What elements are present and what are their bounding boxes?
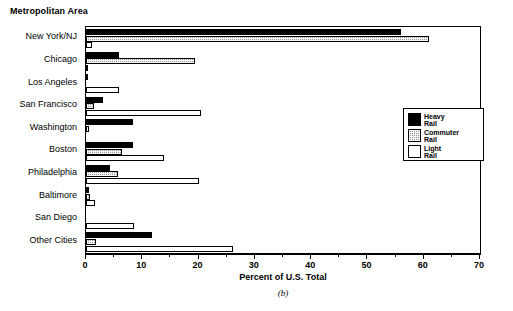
x-tick-45 bbox=[338, 254, 339, 257]
x-tick-20 bbox=[198, 254, 199, 259]
x-axis: 010203040506070 bbox=[85, 254, 481, 255]
bar-commuter-new-york-nj bbox=[86, 36, 429, 42]
x-tick-label-50: 50 bbox=[361, 260, 371, 270]
x-tick-label-60: 60 bbox=[418, 260, 428, 270]
legend-item-commuter: CommuterRail bbox=[408, 129, 479, 143]
x-tick-label-20: 20 bbox=[193, 260, 203, 270]
legend-swatch-commuter-icon bbox=[408, 129, 421, 142]
x-tick-label-40: 40 bbox=[305, 260, 315, 270]
y-axis-label-other-cities: Other Cities bbox=[0, 235, 81, 245]
y-axis-label-new-york-nj: New York/NJ bbox=[0, 31, 81, 41]
legend-label-light: LightRail bbox=[424, 145, 441, 159]
y-axis-label-chicago: Chicago bbox=[0, 54, 81, 64]
bar-heavy-other-cities bbox=[86, 232, 152, 238]
bar-commuter-baltimore bbox=[86, 194, 90, 200]
bar-light-boston bbox=[86, 155, 164, 161]
legend-item-light: LightRail bbox=[408, 145, 479, 159]
bar-light-other-cities bbox=[86, 246, 233, 252]
x-tick-label-70: 70 bbox=[474, 260, 484, 270]
y-axis-label-washington: Washington bbox=[0, 122, 81, 132]
x-tick-50 bbox=[366, 254, 367, 259]
bar-light-chicago bbox=[86, 65, 88, 71]
x-tick-5 bbox=[113, 254, 114, 257]
legend-label-heavy: HeavyRail bbox=[424, 113, 445, 127]
x-tick-label-10: 10 bbox=[136, 260, 146, 270]
bar-commuter-washington bbox=[86, 126, 89, 132]
page-title: Metropolitan Area bbox=[10, 6, 88, 16]
bar-light-baltimore bbox=[86, 200, 95, 206]
x-tick-label-30: 30 bbox=[249, 260, 259, 270]
x-tick-60 bbox=[423, 254, 424, 259]
x-tick-55 bbox=[395, 254, 396, 257]
legend-item-heavy: HeavyRail bbox=[408, 113, 479, 127]
y-axis-label-philadelphia: Philadelphia bbox=[0, 167, 81, 177]
x-tick-0 bbox=[85, 254, 86, 259]
bar-heavy-new-york-nj bbox=[86, 29, 401, 35]
x-axis-title: Percent of U.S. Total bbox=[85, 272, 481, 282]
legend-swatch-light-icon bbox=[408, 145, 421, 158]
legend-label-commuter: CommuterRail bbox=[424, 129, 459, 143]
bar-heavy-washington bbox=[86, 119, 133, 125]
y-axis-label-baltimore: Baltimore bbox=[0, 190, 81, 200]
y-axis-label-los-angeles: Los Angeles bbox=[0, 77, 81, 87]
figure-panel-b: Metropolitan Area New York/NJChicagoLos … bbox=[0, 0, 513, 311]
bar-heavy-baltimore bbox=[86, 187, 89, 193]
bar-heavy-boston bbox=[86, 142, 133, 148]
x-tick-65 bbox=[451, 254, 452, 257]
figure-caption: (b) bbox=[85, 288, 481, 298]
bar-commuter-boston bbox=[86, 149, 122, 155]
bar-light-los-angeles bbox=[86, 87, 119, 93]
y-axis-label-san-diego: San Diego bbox=[0, 212, 81, 222]
x-tick-70 bbox=[479, 254, 480, 259]
bar-commuter-san-francisco bbox=[86, 103, 94, 109]
bar-light-new-york-nj bbox=[86, 42, 92, 48]
bar-light-philadelphia bbox=[86, 178, 199, 184]
y-axis-category-labels: New York/NJChicagoLos AngelesSan Francis… bbox=[0, 26, 81, 254]
bar-light-san-francisco bbox=[86, 110, 201, 116]
bar-light-san-diego bbox=[86, 223, 134, 229]
legend: HeavyRailCommuterRailLightRail bbox=[403, 108, 484, 161]
bar-heavy-chicago bbox=[86, 52, 119, 58]
x-axis-line bbox=[85, 254, 481, 255]
bar-commuter-chicago bbox=[86, 58, 195, 64]
x-tick-label-0: 0 bbox=[82, 260, 87, 270]
y-axis-label-san-francisco: San Francisco bbox=[0, 99, 81, 109]
x-tick-25 bbox=[226, 254, 227, 257]
x-tick-35 bbox=[282, 254, 283, 257]
bar-heavy-san-francisco bbox=[86, 97, 103, 103]
bar-commuter-philadelphia bbox=[86, 171, 118, 177]
bar-heavy-los-angeles bbox=[86, 74, 88, 80]
x-tick-10 bbox=[141, 254, 142, 259]
x-tick-30 bbox=[254, 254, 255, 259]
legend-swatch-heavy-icon bbox=[408, 113, 421, 126]
y-axis-label-boston: Boston bbox=[0, 144, 81, 154]
bar-heavy-philadelphia bbox=[86, 165, 110, 171]
x-tick-15 bbox=[169, 254, 170, 257]
x-tick-40 bbox=[310, 254, 311, 259]
bar-commuter-other-cities bbox=[86, 239, 96, 245]
